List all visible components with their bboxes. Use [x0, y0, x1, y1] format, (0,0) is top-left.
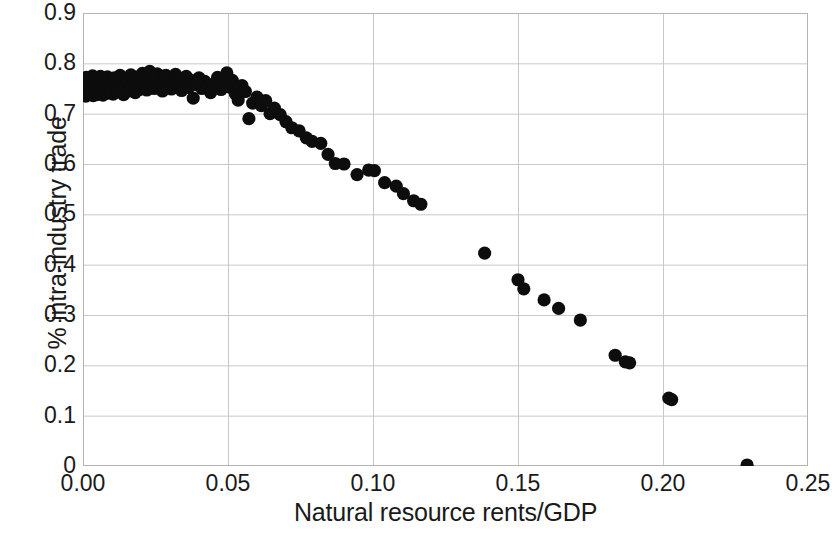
data-point — [378, 176, 391, 189]
x-axis-tick-label: 0.20 — [641, 472, 686, 495]
data-point — [368, 164, 381, 177]
data-point — [239, 85, 252, 98]
x-axis-tick-label: 0.10 — [351, 472, 396, 495]
data-point — [242, 112, 255, 125]
y-axis-tick-label: 0.3 — [34, 303, 76, 326]
scatter-plot-svg — [83, 13, 808, 466]
y-axis-tick-label: 0.6 — [34, 152, 76, 175]
data-point — [574, 313, 587, 326]
y-axis-tick-label: 0.9 — [34, 1, 76, 24]
data-point — [350, 168, 363, 181]
data-point — [478, 246, 491, 259]
y-axis-tick-label: 0.5 — [34, 202, 76, 225]
x-axis-tick-label: 0.15 — [496, 472, 541, 495]
x-axis-tick-label: 0.25 — [786, 472, 831, 495]
data-point — [665, 393, 678, 406]
scatter-chart-figure: % intra-industry trade 00.10.20.30.40.50… — [0, 0, 836, 537]
x-axis-title: Natural resource rents/GDP — [83, 498, 808, 527]
data-point — [538, 293, 551, 306]
data-point — [552, 302, 565, 315]
y-axis-tick-label: 0.7 — [34, 102, 76, 125]
data-point — [337, 157, 350, 170]
x-axis-tick-label: 0.05 — [206, 472, 251, 495]
data-point — [314, 137, 327, 150]
plot-area — [83, 13, 808, 466]
x-axis-tick-label: 0.00 — [61, 472, 106, 495]
data-point — [741, 458, 754, 466]
y-axis-tick-labels: 00.10.20.30.40.50.60.70.80.9 — [34, 0, 76, 537]
data-point — [414, 198, 427, 211]
y-axis-tick-label: 0.4 — [34, 253, 76, 276]
data-point — [623, 356, 636, 369]
y-axis-tick-label: 0.8 — [34, 51, 76, 74]
y-axis-tick-label: 0.1 — [34, 404, 76, 427]
data-point — [517, 282, 530, 295]
y-axis-tick-label: 0.2 — [34, 353, 76, 376]
